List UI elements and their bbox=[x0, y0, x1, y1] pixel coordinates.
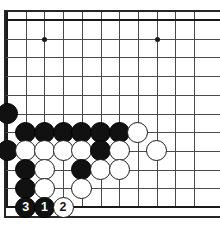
grid-line-horizontal bbox=[5, 76, 220, 77]
move-stone-1: 1 bbox=[34, 197, 55, 218]
white-stone bbox=[34, 178, 55, 199]
grid-line-horizontal bbox=[5, 95, 220, 96]
white-stone bbox=[90, 159, 111, 180]
grid-line-horizontal bbox=[5, 114, 220, 115]
grid-line-horizontal bbox=[5, 57, 220, 58]
white-stone bbox=[34, 159, 55, 180]
grid-line-horizontal bbox=[5, 19, 220, 21]
black-stone bbox=[0, 103, 18, 124]
star-point bbox=[42, 37, 47, 42]
star-point bbox=[155, 37, 160, 42]
grid-line-horizontal bbox=[5, 39, 220, 40]
move-number-label: 2 bbox=[54, 198, 73, 217]
board-border-top bbox=[4, 10, 220, 12]
white-stone bbox=[71, 178, 92, 199]
move-number-label: 3 bbox=[16, 198, 35, 217]
go-board-diagram: 312 bbox=[0, 0, 220, 226]
white-stone bbox=[109, 159, 130, 180]
white-stone bbox=[146, 140, 167, 161]
move-number-label: 1 bbox=[35, 198, 54, 217]
white-stone bbox=[127, 122, 148, 143]
move-stone-2: 2 bbox=[53, 197, 74, 218]
